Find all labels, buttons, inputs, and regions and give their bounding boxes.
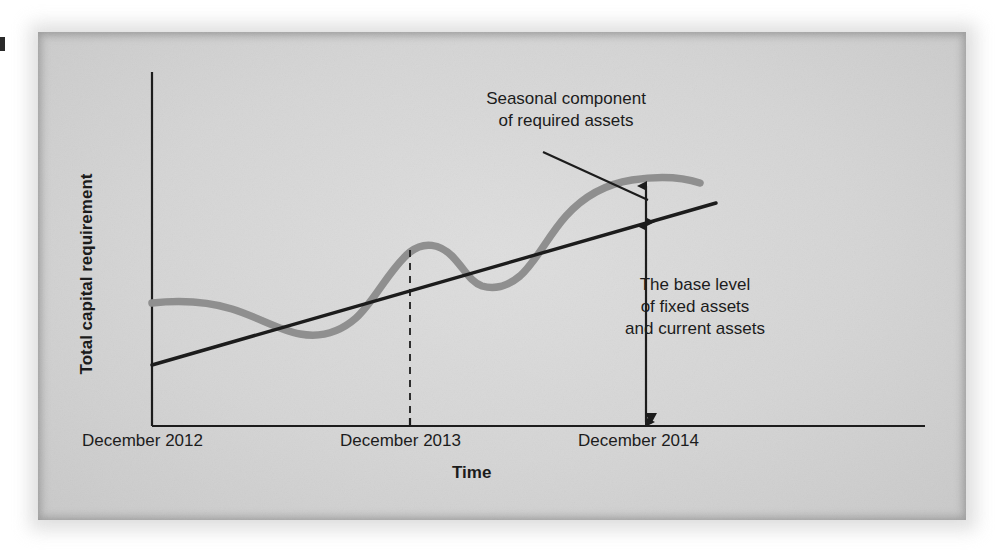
x-tick-label-december-2013: December 2013 — [340, 430, 461, 451]
page-margin-tick — [0, 37, 5, 51]
y-axis-label-wrapper: Total capital requirement — [58, 150, 86, 400]
x-axis-label: Time — [452, 462, 491, 483]
base-level-annotation: The base level of fixed assets and curre… — [560, 274, 830, 340]
seasonal-component-annotation: Seasonal component of required assets — [432, 88, 700, 132]
x-tick-label-december-2012: December 2012 — [82, 430, 203, 451]
y-axis-label: Total capital requirement — [77, 149, 97, 399]
figure-root: Total capital requirement Seasonal compo… — [0, 0, 998, 556]
x-tick-label-december-2014: December 2014 — [578, 430, 699, 451]
